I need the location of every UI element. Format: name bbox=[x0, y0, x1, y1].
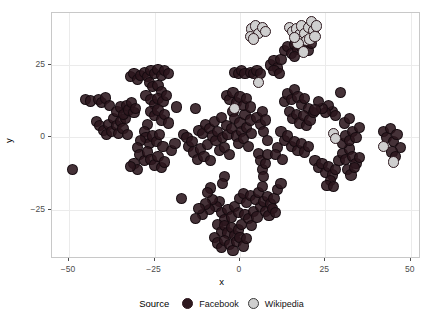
data-point-fb bbox=[344, 113, 355, 124]
x-tick-label: 0 bbox=[237, 264, 242, 274]
y-tick-mark bbox=[48, 209, 51, 210]
data-point-fb bbox=[303, 141, 314, 152]
data-point-fb bbox=[202, 187, 213, 198]
x-axis-title: x bbox=[0, 276, 443, 287]
data-point-fb bbox=[217, 178, 228, 189]
data-point-fb bbox=[328, 181, 339, 192]
y-tick-label: −25 bbox=[0, 204, 45, 214]
legend-label-wikipedia: Wikipedia bbox=[265, 299, 304, 309]
data-point-wk bbox=[248, 33, 259, 44]
data-point-wk bbox=[388, 156, 399, 167]
data-point-fb bbox=[245, 101, 256, 112]
data-point-fb bbox=[243, 141, 254, 152]
data-point-fb bbox=[190, 103, 201, 114]
legend-key-facebook-icon bbox=[182, 298, 193, 309]
plot-panel bbox=[51, 12, 420, 258]
data-point-fb bbox=[154, 129, 165, 140]
data-point-fb bbox=[130, 103, 141, 114]
data-point-fb bbox=[205, 155, 216, 166]
x-tick-mark bbox=[239, 258, 240, 261]
data-point-fb bbox=[274, 68, 285, 79]
data-point-fb bbox=[224, 149, 235, 160]
data-point-fb bbox=[241, 233, 252, 244]
data-point-fb bbox=[257, 181, 268, 192]
data-point-wk bbox=[311, 20, 322, 31]
data-point-fb bbox=[354, 122, 365, 133]
data-point-fb bbox=[159, 156, 170, 167]
x-tick-label: 25 bbox=[320, 264, 329, 274]
data-point-wk bbox=[260, 26, 271, 37]
data-point-fb bbox=[309, 104, 320, 115]
legend-title: Source bbox=[139, 298, 169, 309]
data-point-fb bbox=[163, 68, 174, 79]
gridline-vertical bbox=[69, 13, 70, 257]
x-tick-mark bbox=[68, 258, 69, 261]
y-axis-title: y bbox=[3, 138, 14, 143]
data-point-fb bbox=[190, 213, 201, 224]
data-point-fb bbox=[349, 162, 360, 173]
gridline-vertical bbox=[325, 13, 326, 257]
x-tick-label: 50 bbox=[405, 264, 414, 274]
data-point-fb bbox=[169, 138, 180, 149]
data-point-wk bbox=[309, 31, 320, 42]
y-tick-mark bbox=[48, 64, 51, 65]
data-point-fb bbox=[163, 117, 174, 128]
data-point-fb bbox=[262, 135, 273, 146]
gridline-horizontal bbox=[52, 65, 419, 66]
data-point-fb bbox=[260, 114, 271, 125]
data-point-fb bbox=[275, 178, 286, 189]
legend-key-wikipedia-icon bbox=[248, 298, 259, 309]
data-point-fb bbox=[125, 161, 136, 172]
data-point-fb bbox=[171, 101, 182, 112]
data-point-fb bbox=[122, 129, 133, 140]
x-tick-label: −25 bbox=[146, 264, 160, 274]
data-point-fb bbox=[161, 90, 172, 101]
legend-item-facebook[interactable]: Facebook bbox=[182, 298, 239, 309]
data-point-wk bbox=[298, 46, 309, 57]
legend: Source Facebook Wikipedia bbox=[0, 298, 443, 309]
legend-label-facebook: Facebook bbox=[199, 299, 239, 309]
gridline-vertical bbox=[411, 13, 412, 257]
data-point-fb bbox=[350, 132, 361, 143]
x-tick-label: −50 bbox=[61, 264, 75, 274]
x-tick-mark bbox=[154, 258, 155, 261]
x-tick-mark bbox=[324, 258, 325, 261]
data-point-fb bbox=[176, 193, 187, 204]
data-point-wk bbox=[253, 77, 264, 88]
scatter-plot-figure: −50−2502550250−25 x y Source Facebook Wi… bbox=[0, 0, 443, 327]
x-tick-mark bbox=[410, 258, 411, 261]
y-tick-mark bbox=[48, 136, 51, 137]
data-point-fb bbox=[67, 164, 78, 175]
y-tick-label: 25 bbox=[0, 59, 45, 69]
data-point-fb bbox=[270, 207, 281, 218]
data-point-wk bbox=[378, 141, 389, 152]
data-point-fb bbox=[277, 154, 288, 165]
legend-item-wikipedia[interactable]: Wikipedia bbox=[248, 298, 304, 309]
data-point-fb bbox=[391, 129, 402, 140]
data-point-fb bbox=[335, 87, 346, 98]
